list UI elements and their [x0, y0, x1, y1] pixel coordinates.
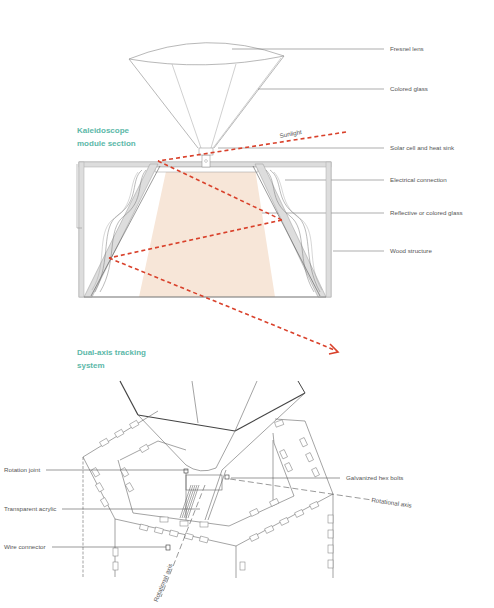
label-wire-connector: Wire connector — [4, 544, 46, 550]
tracking-title-line1: Dual-axis tracking — [77, 346, 146, 359]
label-galvanized-bolts: Galvanized hex bolts — [346, 475, 403, 481]
kaleidoscope-section-title: Kaleidoscope module section — [77, 124, 136, 150]
label-wood-structure: Wood structure — [390, 248, 432, 254]
tracking-title-line2: system — [77, 359, 146, 372]
label-electrical-connection: Electrical connection — [390, 177, 447, 183]
tracking-section-title: Dual-axis tracking system — [77, 346, 146, 372]
tracking-system — [83, 381, 333, 578]
label-colored-glass: Colored glass — [390, 86, 428, 92]
kaleidoscope-title-line2: module section — [77, 137, 136, 150]
label-transparent-acrylic: Transparent acrylic — [4, 506, 56, 512]
kaleidoscope-title-line1: Kaleidoscope — [77, 124, 136, 137]
fresnel-lens-assembly — [129, 43, 284, 148]
label-solar-cell: Solar cell and heat sink — [390, 145, 454, 151]
module-section — [77, 148, 331, 297]
label-rotation-joint: Rotation joint — [4, 467, 40, 473]
label-fresnel-lens: Fresnel lens — [390, 46, 424, 52]
label-reflective-glass: Reflective or colored glass — [390, 210, 463, 216]
